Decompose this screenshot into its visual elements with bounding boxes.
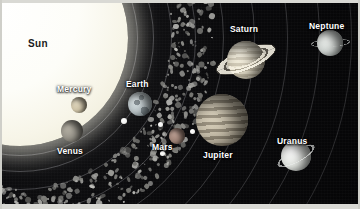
asteroid xyxy=(187,69,189,71)
mars-moon xyxy=(158,122,163,127)
asteroid xyxy=(148,117,154,122)
asteroid xyxy=(186,14,190,18)
asteroid xyxy=(117,153,121,157)
asteroid xyxy=(177,84,183,91)
asteroid xyxy=(103,175,108,180)
asteroid xyxy=(207,27,212,33)
asteroid xyxy=(116,182,119,184)
asteroid xyxy=(187,79,190,82)
planet-label-earth: Earth xyxy=(126,79,149,89)
asteroid xyxy=(174,147,178,152)
asteroid xyxy=(137,169,142,173)
asteroid xyxy=(194,40,197,42)
asteroid xyxy=(191,44,193,46)
asteroid xyxy=(189,39,193,44)
asteroid xyxy=(187,33,190,36)
solar-system-illustration: Sun MercuryVenusEarthMarsJupiterSaturnUr… xyxy=(0,0,360,209)
asteroid xyxy=(197,18,200,21)
asteroid xyxy=(124,152,131,159)
asteroid xyxy=(184,50,186,52)
asteroid xyxy=(122,192,126,196)
asteroid xyxy=(123,201,125,203)
asteroid xyxy=(154,173,160,180)
frame-bottom-edge xyxy=(0,204,360,209)
asteroid xyxy=(126,176,131,182)
asteroid xyxy=(134,147,137,149)
asteroid xyxy=(119,188,123,191)
asteroid xyxy=(198,62,205,68)
asteroid xyxy=(154,109,156,111)
asteroid xyxy=(193,85,195,87)
planet-label-venus: Venus xyxy=(57,146,83,156)
asteroid xyxy=(156,162,160,166)
asteroid xyxy=(136,164,138,167)
asteroid xyxy=(155,124,157,126)
asteroid xyxy=(197,28,204,35)
planet-label-jupiter: Jupiter xyxy=(203,150,233,160)
planet-label-neptune: Neptune xyxy=(309,21,344,31)
asteroid xyxy=(170,83,173,86)
asteroid xyxy=(113,174,118,180)
asteroid xyxy=(135,192,138,195)
asteroid xyxy=(204,91,208,95)
asteroid xyxy=(187,60,195,67)
asteroid xyxy=(119,149,124,153)
frame-top-edge xyxy=(0,0,360,3)
asteroid xyxy=(15,189,17,192)
asteroid xyxy=(185,55,189,60)
asteroid xyxy=(167,89,169,91)
asteroid xyxy=(206,6,213,12)
asteroid xyxy=(182,93,186,96)
planet-label-mars: Mars xyxy=(152,142,173,152)
asteroid xyxy=(60,183,66,189)
asteroid xyxy=(208,12,216,20)
asteroid xyxy=(19,195,24,200)
asteroid xyxy=(90,192,95,197)
planet-label-mercury: Mercury xyxy=(57,84,91,94)
asteroid xyxy=(58,198,61,201)
asteroid xyxy=(74,188,80,194)
asteroid xyxy=(183,111,187,117)
planet-jupiter xyxy=(196,94,248,146)
asteroid xyxy=(108,200,110,202)
asteroid xyxy=(135,138,140,143)
asteroid xyxy=(177,18,182,23)
asteroid xyxy=(164,76,166,77)
asteroid xyxy=(150,125,153,128)
earth-moon xyxy=(121,118,127,124)
asteroid xyxy=(178,42,180,44)
asteroid xyxy=(195,45,197,47)
asteroid xyxy=(183,123,190,129)
asteroid xyxy=(145,164,146,166)
asteroid xyxy=(178,45,180,47)
planet-label-uranus: Uranus xyxy=(277,136,308,146)
asteroid xyxy=(153,100,159,105)
mars-moon xyxy=(190,129,195,134)
frame-left-edge xyxy=(0,0,2,209)
asteroid xyxy=(209,61,215,67)
asteroid xyxy=(176,30,179,34)
asteroid xyxy=(148,167,153,172)
planet-label-saturn: Saturn xyxy=(230,24,258,34)
planet-neptune xyxy=(317,30,343,56)
asteroid xyxy=(169,12,172,15)
asteroid xyxy=(100,193,107,199)
asteroid xyxy=(169,106,174,112)
asteroid xyxy=(173,42,175,44)
asteroid xyxy=(147,145,149,147)
asteroid xyxy=(93,180,97,184)
asteroid xyxy=(204,66,208,70)
asteroid xyxy=(178,70,186,78)
planet-earth xyxy=(128,92,152,116)
planet-venus xyxy=(61,120,83,142)
asteroid xyxy=(158,107,162,111)
asteroid xyxy=(170,32,175,38)
asteroid xyxy=(179,63,184,68)
asteroid xyxy=(6,187,12,192)
planet-saturn xyxy=(227,41,265,79)
asteroid xyxy=(173,24,180,29)
asteroid xyxy=(186,85,191,90)
planet-mercury xyxy=(71,97,87,113)
sun-label: Sun xyxy=(28,38,48,49)
asteroid xyxy=(167,73,169,75)
